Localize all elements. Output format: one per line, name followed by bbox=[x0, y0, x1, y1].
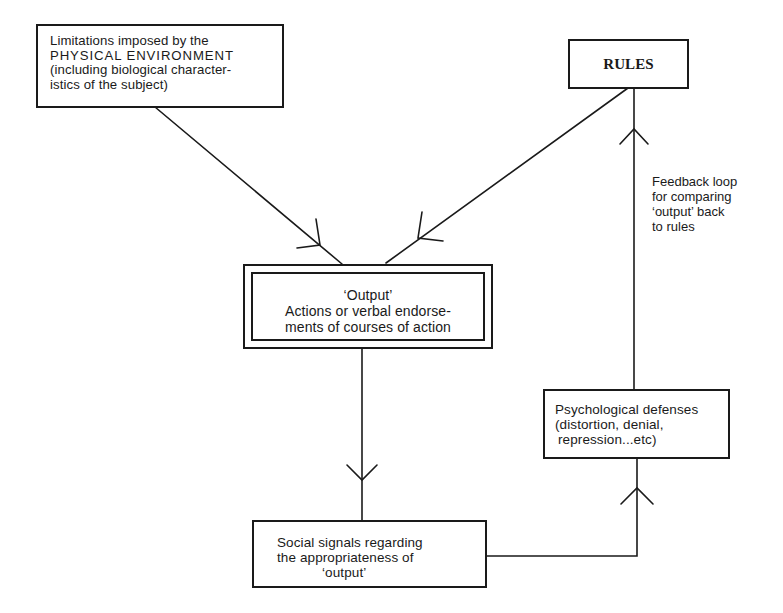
node-social-signals: Social signals regarding the appropriate… bbox=[252, 520, 487, 588]
text-line: Psychological defenses bbox=[555, 402, 728, 417]
node-text: Social signals regarding the appropriate… bbox=[277, 535, 485, 580]
node-psychological-defenses: Psychological defenses (distortion, deni… bbox=[543, 389, 730, 459]
text-line: repression...etc) bbox=[555, 432, 728, 447]
node-rules: RULES bbox=[568, 39, 689, 89]
node-output-inner-border: ‘Output’ Actions or verbal endorse- ment… bbox=[251, 272, 485, 341]
text-line: (distortion, denial, bbox=[555, 417, 728, 432]
edge-rules-to-output bbox=[386, 88, 628, 263]
text-line: ‘output’ bbox=[277, 565, 485, 580]
text-line: Social signals regarding bbox=[277, 535, 485, 550]
edge-social-to-psych bbox=[487, 459, 637, 556]
text-line: Feedback loop bbox=[652, 174, 737, 189]
text-line: ‘Output’ bbox=[253, 287, 483, 303]
text-line: Actions or verbal endorse- bbox=[253, 303, 483, 319]
feedback-loop-annotation: Feedback loop for comparing ‘output’ bac… bbox=[652, 174, 737, 234]
text-line: ments of courses of action bbox=[253, 319, 483, 335]
text-line: the appropriateness of bbox=[277, 550, 485, 565]
edge-environment-to-output bbox=[155, 107, 342, 264]
node-text: Limitations imposed by the PHYSICAL ENVI… bbox=[50, 34, 272, 92]
text-line: to rules bbox=[652, 219, 737, 234]
node-label: RULES bbox=[603, 57, 654, 72]
node-output: ‘Output’ Actions or verbal endorse- ment… bbox=[243, 264, 493, 349]
text-line: for comparing bbox=[652, 189, 737, 204]
text-line: (including biological character- bbox=[50, 63, 272, 78]
node-text: Psychological defenses (distortion, deni… bbox=[555, 402, 728, 447]
node-text: ‘Output’ Actions or verbal endorse- ment… bbox=[253, 287, 483, 335]
node-physical-environment: Limitations imposed by the PHYSICAL ENVI… bbox=[36, 24, 284, 108]
text-line: PHYSICAL ENVIRONMENT bbox=[50, 49, 272, 64]
text-line: Limitations imposed by the bbox=[50, 34, 272, 49]
text-line: ‘output’ back bbox=[652, 204, 737, 219]
text-line: istics of the subject) bbox=[50, 78, 272, 93]
